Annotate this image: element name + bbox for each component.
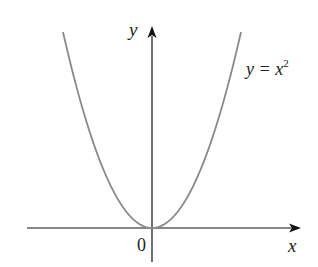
x-axis-label: x [288, 236, 296, 255]
y-axis-label: y [129, 20, 137, 39]
equation-base: y = x [246, 59, 283, 79]
equation-exponent: 2 [283, 57, 289, 69]
parabola-figure [0, 0, 318, 267]
origin-label: 0 [137, 236, 146, 254]
curve-equation-label: y = x2 [246, 58, 289, 78]
